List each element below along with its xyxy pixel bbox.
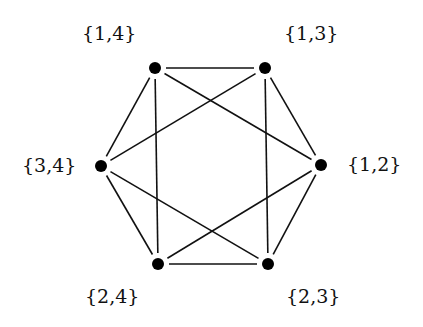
- node-24: [152, 258, 164, 270]
- edge-12-23: [273, 175, 316, 255]
- edge-14-34: [106, 78, 149, 157]
- node-23: [262, 258, 274, 270]
- edges-group: [106, 68, 315, 264]
- edge-14-24: [155, 79, 158, 253]
- edge-13-23: [265, 79, 268, 253]
- edge-13-34: [110, 74, 255, 161]
- node-label-13: {1,3}: [284, 24, 338, 43]
- edge-34-24: [107, 176, 153, 255]
- node-34: [95, 160, 107, 172]
- edge-12-24: [167, 171, 311, 259]
- edge-34-23: [110, 172, 258, 259]
- node-14: [149, 62, 161, 74]
- node-label-23: {2,3}: [286, 287, 340, 306]
- node-label-34: {3,4}: [22, 156, 76, 175]
- nodes-group: [95, 62, 327, 270]
- node-label-14: {1,4}: [82, 24, 136, 43]
- edge-14-12: [164, 74, 311, 160]
- node-label-24: {2,4}: [85, 287, 139, 306]
- node-13: [259, 62, 271, 74]
- edge-13-12: [270, 78, 315, 156]
- node-label-12: {1,2}: [347, 155, 401, 174]
- node-12: [315, 159, 327, 171]
